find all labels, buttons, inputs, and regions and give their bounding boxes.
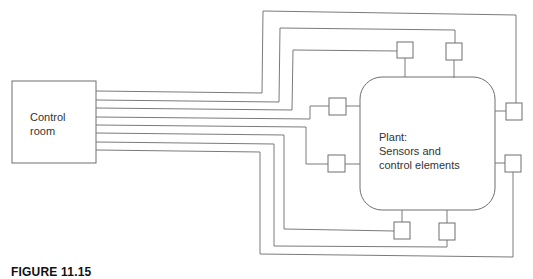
plant-label: Plant: Sensors and control elements	[379, 130, 460, 172]
wire-3	[96, 50, 397, 110]
sensor-left-lower	[328, 155, 345, 172]
plant-label-line3: control elements	[379, 158, 460, 172]
sensor-top-left	[397, 42, 413, 58]
sensor-bottom-left	[394, 222, 410, 239]
plant-label-line2: Sensors and	[379, 144, 460, 158]
sensor-top-right	[446, 43, 462, 60]
control-room-label: Control room	[30, 110, 65, 138]
plant-label-line1: Plant:	[379, 130, 460, 144]
wire-6	[96, 133, 394, 231]
wire-5	[96, 125, 328, 164]
sensor-left-upper	[329, 98, 346, 115]
sensor-right-lower	[505, 155, 521, 172]
sensor-right-upper	[506, 103, 522, 120]
figure-caption: FIGURE 11.15	[11, 265, 91, 279]
sensor-bottom-right	[439, 223, 455, 240]
control-room-label-line2: room	[30, 124, 65, 138]
control-room-label-line1: Control	[30, 110, 65, 124]
